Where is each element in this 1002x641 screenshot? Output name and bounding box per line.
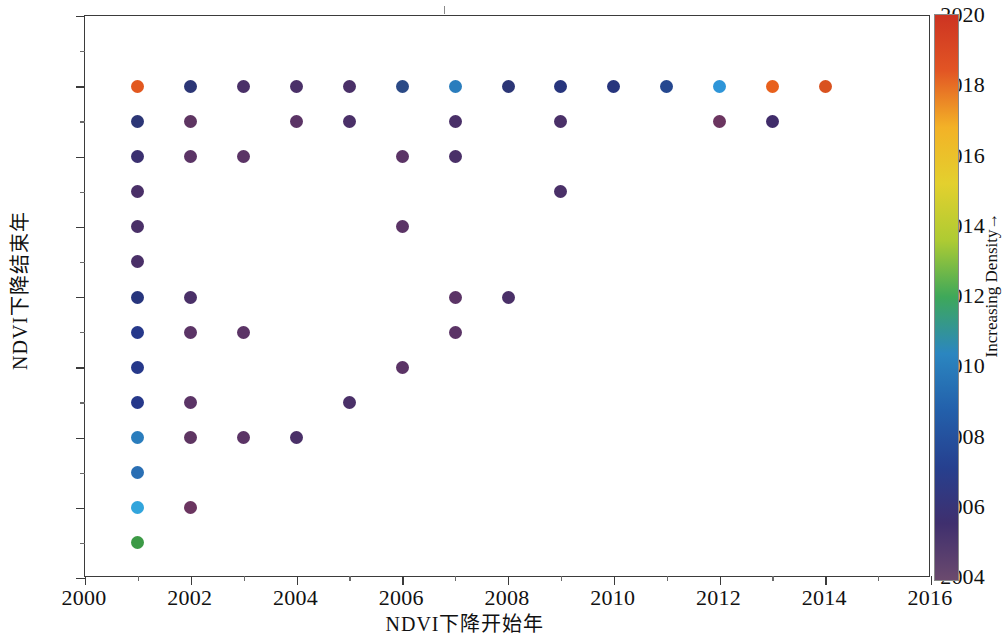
y-tick-minor: [80, 262, 85, 263]
y-tick-major: [76, 438, 85, 439]
scatter-point: [131, 466, 144, 479]
x-tick-minor: [878, 576, 879, 581]
scatter-point: [184, 150, 197, 163]
scatter-point: [131, 501, 144, 514]
x-tick-major: [508, 576, 509, 585]
x-tick-minor: [455, 576, 456, 581]
x-tick-major: [614, 576, 615, 585]
top-frame-tick: [444, 6, 445, 14]
y-tick-minor: [80, 121, 85, 122]
scatter-point: [131, 326, 144, 339]
x-tick-label: 2014: [779, 587, 869, 609]
scatter-point: [131, 185, 144, 198]
x-tick-label: 2012: [674, 587, 764, 609]
y-tick-minor: [80, 51, 85, 52]
y-tick-minor: [80, 543, 85, 544]
x-tick-minor: [561, 576, 562, 581]
scatter-point: [449, 80, 462, 93]
scatter-point: [502, 80, 515, 93]
scatter-point: [290, 115, 303, 128]
x-tick-minor: [244, 576, 245, 581]
scatter-point: [396, 150, 409, 163]
y-tick-major: [76, 297, 85, 298]
y-tick-major: [76, 578, 85, 579]
scatter-point: [131, 431, 144, 444]
scatter-point: [184, 115, 197, 128]
y-tick-minor: [80, 473, 85, 474]
y-tick-major: [76, 157, 85, 158]
scatter-point: [131, 255, 144, 268]
x-tick-minor: [138, 576, 139, 581]
y-tick-major: [76, 86, 85, 87]
scatter-point: [449, 115, 462, 128]
scatter-point: [131, 396, 144, 409]
x-tick-label: 2002: [145, 587, 235, 609]
scatter-point: [449, 291, 462, 304]
y-tick-major: [76, 16, 85, 17]
scatter-point: [184, 501, 197, 514]
x-tick-minor: [772, 576, 773, 581]
x-tick-major: [825, 576, 826, 585]
x-tick-major: [720, 576, 721, 585]
scatter-point: [237, 326, 250, 339]
x-tick-label: 2004: [251, 587, 341, 609]
scatter-point: [131, 291, 144, 304]
x-axis-title: NDVI下降开始年: [0, 608, 930, 637]
colorbar-gradient: [934, 14, 958, 580]
colorbar-title: Increasing Density→: [982, 165, 1002, 405]
scatter-point: [184, 396, 197, 409]
scatter-point: [449, 150, 462, 163]
scatter-point: [554, 115, 567, 128]
scatter-point: [396, 361, 409, 374]
x-tick-major: [931, 576, 932, 585]
scatter-point: [237, 80, 250, 93]
scatter-point: [343, 80, 356, 93]
y-tick-minor: [80, 402, 85, 403]
x-tick-minor: [667, 576, 668, 581]
scatter-point: [290, 80, 303, 93]
scatter-point: [660, 80, 673, 93]
scatter-point: [396, 220, 409, 233]
x-tick-label: 2008: [462, 587, 552, 609]
x-tick-major: [85, 576, 86, 585]
scatter-point: [131, 361, 144, 374]
plot-area: [84, 15, 930, 577]
scatter-point: [713, 80, 726, 93]
scatter-point: [343, 115, 356, 128]
scatter-point: [554, 185, 567, 198]
x-tick-label: 2000: [39, 587, 129, 609]
scatter-point: [131, 536, 144, 549]
scatter-point: [396, 80, 409, 93]
x-tick-minor: [349, 576, 350, 581]
scatter-point: [766, 115, 779, 128]
scatter-point: [184, 326, 197, 339]
scatter-point: [502, 291, 515, 304]
y-tick-major: [76, 508, 85, 509]
scatter-point: [449, 326, 462, 339]
scatter-point: [237, 431, 250, 444]
scatter-point: [819, 80, 832, 93]
scatter-point: [131, 220, 144, 233]
scatter-point: [554, 80, 567, 93]
y-axis-title: NDVI下降结束年: [4, 181, 33, 401]
scatter-point: [131, 80, 144, 93]
scatter-point: [766, 80, 779, 93]
density-colorbar: [934, 14, 958, 580]
y-tick-minor: [80, 192, 85, 193]
scatter-point: [237, 150, 250, 163]
scatter-point: [290, 431, 303, 444]
x-tick-label: 2006: [356, 587, 446, 609]
x-tick-label: 2016: [885, 587, 975, 609]
scatter-point: [343, 396, 356, 409]
y-tick-minor: [80, 332, 85, 333]
scatter-point: [131, 150, 144, 163]
scatter-point: [713, 115, 726, 128]
y-tick-major: [76, 367, 85, 368]
y-tick-major: [76, 227, 85, 228]
scatter-point: [184, 291, 197, 304]
x-tick-major: [402, 576, 403, 585]
x-tick-major: [191, 576, 192, 585]
scatter-point: [131, 115, 144, 128]
scatter-point: [184, 431, 197, 444]
